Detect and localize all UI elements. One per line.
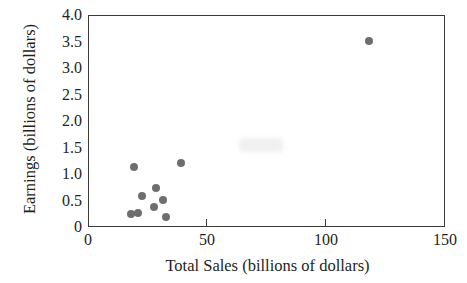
x-axis-title: Total Sales (billions of dollars) bbox=[89, 256, 446, 276]
data-point bbox=[177, 159, 185, 167]
y-tick-label-wrap: 2.5 bbox=[32, 87, 82, 103]
y-tick-label: 3.0 bbox=[36, 60, 82, 76]
x-tick-label-wrap: 50 bbox=[177, 230, 237, 250]
y-tick-label-wrap: 4.0 bbox=[32, 7, 82, 23]
y-tick-label: 4.0 bbox=[36, 7, 82, 23]
data-point bbox=[134, 209, 142, 217]
x-tick-label: 150 bbox=[415, 230, 467, 250]
y-tick-label-wrap: 3.0 bbox=[32, 60, 82, 76]
plot-area bbox=[89, 16, 444, 226]
y-tick-label: 2.5 bbox=[36, 87, 82, 103]
y-tick-label: 1.0 bbox=[36, 166, 82, 182]
y-tick-label-wrap: 2.0 bbox=[32, 113, 82, 129]
x-tick-label: 0 bbox=[58, 230, 118, 250]
x-tick-label: 50 bbox=[177, 230, 237, 250]
y-tick-label-wrap: 3.5 bbox=[32, 34, 82, 50]
data-point bbox=[150, 203, 158, 211]
y-tick-label-wrap: 0.5 bbox=[32, 193, 82, 209]
y-tick-label: 1.5 bbox=[36, 140, 82, 156]
data-point bbox=[162, 213, 170, 221]
data-point bbox=[130, 163, 138, 171]
data-point bbox=[152, 184, 160, 192]
x-tick-label: 100 bbox=[296, 230, 356, 250]
plot-frame bbox=[88, 15, 445, 227]
data-point bbox=[159, 196, 167, 204]
data-point bbox=[138, 192, 146, 200]
x-tick-label-wrap: 0 bbox=[58, 230, 118, 250]
y-tick-label: 0.5 bbox=[36, 193, 82, 209]
data-point bbox=[365, 37, 373, 45]
y-tick-label-wrap: 1.0 bbox=[32, 166, 82, 182]
x-tick-label-wrap: 100 bbox=[296, 230, 356, 250]
y-tick-label-wrap: 1.5 bbox=[32, 140, 82, 156]
y-tick-label: 3.5 bbox=[36, 34, 82, 50]
scatter-chart-figure: Earnings (billions of dollars) 00.51.01.… bbox=[0, 0, 467, 283]
x-tick-mark bbox=[325, 219, 326, 227]
x-tick-mark bbox=[206, 219, 207, 227]
x-tick-label-wrap: 150 bbox=[415, 230, 467, 250]
y-tick-label: 2.0 bbox=[36, 113, 82, 129]
